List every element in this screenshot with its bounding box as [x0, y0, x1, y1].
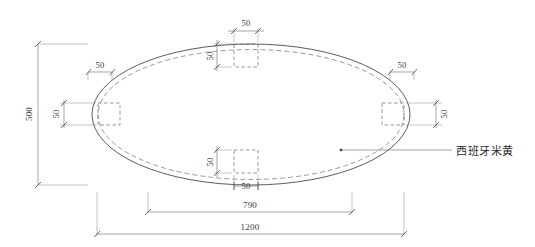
left-notch-square [98, 103, 120, 125]
right-notch-square [382, 103, 404, 125]
right-notch-group: 50 50 [382, 60, 449, 128]
material-callout-group [340, 149, 452, 152]
overall-width-dimension: 1200 [94, 192, 407, 237]
cad-drawing-svg: 50 50 50 50 [0, 0, 535, 247]
top-notch-square [234, 44, 258, 67]
bottom-notch-depth-label: 50 [205, 158, 215, 167]
top-notch-width-label: 50 [242, 18, 251, 28]
left-notch-height-label: 50 [51, 110, 61, 119]
inner-width-label: 790 [243, 200, 257, 210]
material-label: 西班牙米黄 [456, 142, 514, 158]
left-notch-group: 50 50 [51, 60, 120, 128]
overall-width-label: 1200 [241, 222, 260, 232]
left-shoulder-label: 50 [96, 60, 105, 70]
right-notch-height-label: 50 [439, 110, 449, 119]
inner-width-dimension: 790 [145, 192, 355, 215]
overall-height-label: 500 [24, 107, 34, 121]
bottom-notch-width-label: 50 [242, 181, 251, 191]
technical-drawing-canvas: 50 50 50 50 [0, 0, 535, 247]
inner-dashed-ellipse [98, 50, 404, 180]
right-shoulder-label: 50 [398, 60, 407, 70]
top-notch-depth-label: 50 [205, 52, 215, 61]
bottom-notch-square [234, 150, 258, 173]
outer-ellipse-outline [92, 44, 410, 185]
